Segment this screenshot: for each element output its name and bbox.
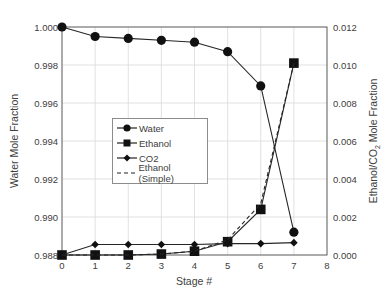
y2-tick-label: 0.000 [333,250,357,261]
y-tick-label: 0.992 [34,174,58,185]
y2-tick-label: 0.002 [333,212,357,223]
x-tick-label: 4 [192,260,197,271]
y-tick-label: 0.988 [34,250,58,261]
y-axis-label: Water Mole Fraction [8,94,20,188]
x-axis-ticks: 012345678 [59,260,329,271]
x-tick-label: 7 [291,260,296,271]
legend-item-ethanol-simple: Ethanol (Simple) [116,166,207,180]
y2-tick-label: 0.006 [333,136,357,147]
legend: Water Ethanol CO2 Ethanol (Simple) [112,118,208,184]
x-tick-label: 3 [159,260,164,271]
circle-marker-icon [116,123,138,133]
square-marker-icon [116,138,138,148]
x-axis-label: Stage # [176,275,212,287]
x-tick-label: 0 [59,260,64,271]
y-tick-label: 0.990 [34,212,58,223]
legend-item-ethanol: Ethanol [116,136,171,150]
diamond-marker-icon [116,153,138,163]
y2-tick-label: 0.012 [333,22,357,33]
dashed-line-icon [116,168,137,178]
y2-axis-ticks: 0.0000.0020.0040.0060.0080.0100.012 [333,22,357,261]
x-tick-label: 2 [126,260,131,271]
y2-tick-label: 0.010 [333,60,357,71]
legend-item-water: Water [116,121,164,135]
x-tick-label: 8 [324,260,329,271]
x-tick-label: 5 [225,260,230,271]
y-tick-label: 0.998 [34,60,58,71]
y-axis-ticks: 0.9880.9900.9920.9940.9960.9981.000 [34,22,58,261]
y2-tick-label: 0.008 [333,98,357,109]
y-tick-label: 0.996 [34,98,58,109]
x-tick-label: 6 [258,260,263,271]
y2-tick-label: 0.004 [333,174,357,185]
y2-axis-label: Ethanol/CO2 Mole Fraction [367,78,381,203]
x-tick-label: 1 [92,260,97,271]
y-tick-label: 1.000 [34,22,58,33]
y-tick-label: 0.994 [34,136,58,147]
